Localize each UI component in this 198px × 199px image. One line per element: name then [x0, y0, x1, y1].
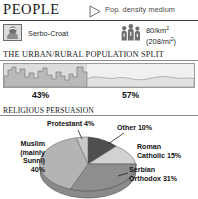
people-info-row: Serbo-Croat 80/km2 (208/mi2) — [0, 21, 198, 44]
leader-line-other — [108, 133, 124, 144]
density-imperial: (208/mi2) — [146, 35, 176, 46]
pie-label-roman-catholic: Roman Catholic 15% — [137, 143, 181, 160]
religion-pie-chart: Protestant 4% Other 10% Roman Catholic 1… — [0, 116, 198, 199]
pie-label-muslim: Muslim (mainly Sunni) 40% — [1, 140, 45, 174]
urban-rural-illustration — [3, 63, 195, 88]
pop-density-note: Pop. density medium — [105, 5, 175, 14]
density-values: 80/km2 (208/mi2) — [146, 24, 176, 46]
urban-rural-percentages: 43% 57% — [0, 90, 198, 101]
pie-label-serbian-orthodox: Serbian Orthodox 31% — [129, 166, 177, 183]
density-metric: 80/km2 — [146, 24, 176, 35]
person-face-icon — [3, 24, 22, 41]
pie-label-protestant: Protestant 4% — [47, 120, 94, 129]
urban-rural-divider — [0, 60, 198, 61]
urban-percent: 43% — [32, 90, 49, 100]
religion-title: RELIGIOUS PERSUASION — [3, 106, 94, 115]
pie-label-other: Other 10% — [117, 124, 152, 133]
urban-rural-title: THE URBAN/RURAL POPULATION SPLIT — [3, 50, 164, 59]
rural-percent: 57% — [122, 90, 139, 100]
triangle-right-icon — [89, 4, 101, 22]
language-label: Serbo-Croat — [28, 29, 68, 38]
people-crowd-icon — [121, 23, 141, 42]
people-header: PEOPLE Pop. density medium — [0, 0, 198, 21]
page-title: PEOPLE — [3, 1, 60, 18]
